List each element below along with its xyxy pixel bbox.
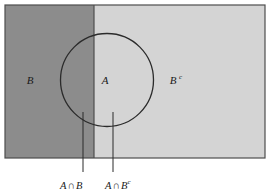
intersection-icon: ∩ (68, 180, 76, 191)
venn-diagram-canvas: B B c A A ∩ B A ∩ B c (0, 0, 270, 193)
label-set-a: A (101, 74, 109, 86)
venn-diagram-container: B B c A A ∩ B A ∩ B c (0, 0, 270, 193)
annotation-a-inter-bc: A ∩ B c (104, 178, 132, 191)
region-b-fill (5, 5, 94, 158)
annotation-a-inter-bc-superscript: c (128, 178, 132, 186)
label-set-b: B (27, 74, 34, 86)
annotation-a-inter-b: A ∩ B (59, 180, 83, 191)
label-set-b-complement-base: B (170, 74, 177, 86)
intersection-icon-2: ∩ (113, 180, 121, 191)
annotation-a-inter-bc-a: A (104, 180, 112, 191)
annotation-a-inter-b-b: B (76, 180, 83, 191)
annotation-a-inter-b-a: A (59, 180, 67, 191)
